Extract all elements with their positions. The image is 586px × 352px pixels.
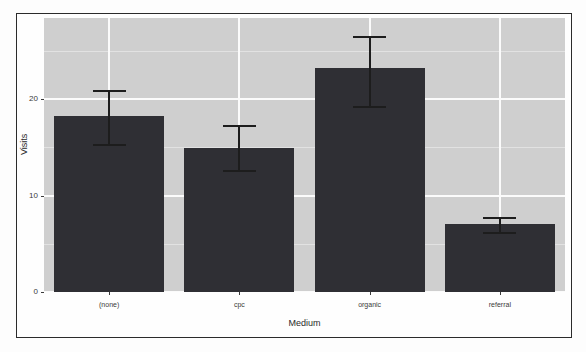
errorbar-stem [238, 125, 240, 170]
errorbar-cap-upper [353, 36, 386, 38]
gridline-major-horizontal [44, 98, 565, 100]
errorbar-stem [499, 217, 501, 232]
x-tick-mark [239, 292, 240, 295]
plot-panel [44, 18, 565, 292]
x-tick-label: organic [358, 301, 381, 309]
errorbar-cap-lower [223, 170, 256, 172]
x-axis-title: Medium [44, 318, 565, 328]
bar[interactable] [445, 224, 555, 292]
gridline-minor-horizontal [44, 51, 565, 52]
x-tick-mark [370, 292, 371, 295]
errorbar-stem [369, 36, 371, 105]
x-tick-mark [500, 292, 501, 295]
y-axis-title: Visits [19, 134, 29, 155]
errorbar-cap-upper [483, 217, 516, 219]
y-tick-label: 10 [29, 192, 38, 200]
errorbar-cap-lower [353, 106, 386, 108]
errorbar-cap-lower [483, 232, 516, 234]
errorbar-cap-upper [223, 125, 256, 127]
x-tick-label: referral [489, 301, 511, 309]
errorbar-cap-upper [93, 90, 126, 92]
x-tick-label: (none) [99, 301, 119, 309]
x-tick-label: cpc [234, 301, 245, 309]
y-tick-label: 20 [29, 95, 38, 103]
y-tick-mark [41, 99, 44, 100]
errorbar-cap-lower [93, 144, 126, 146]
errorbar-stem [108, 90, 110, 144]
x-tick-mark [109, 292, 110, 295]
bar-chart-figure: 01020(none)cpcorganicreferral Visits Med… [0, 0, 586, 352]
y-tick-label: 0 [34, 288, 38, 296]
y-tick-mark [41, 292, 44, 293]
y-tick-mark [41, 196, 44, 197]
